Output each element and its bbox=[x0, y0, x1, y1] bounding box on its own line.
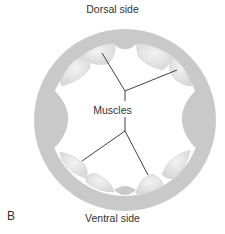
diagram-canvas bbox=[0, 0, 225, 234]
panel-letter: B bbox=[7, 209, 15, 223]
ventral-side-label: Ventral side bbox=[0, 212, 225, 224]
muscles-label: Muscles bbox=[0, 104, 225, 116]
dorsal-side-label: Dorsal side bbox=[0, 3, 225, 15]
